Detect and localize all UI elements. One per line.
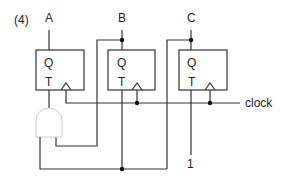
- t-label-c: T: [188, 75, 196, 89]
- output-label-a: A: [45, 11, 53, 25]
- output-label-b: B: [118, 11, 126, 25]
- junction-b: [120, 38, 124, 42]
- wire-and-input-c: [40, 137, 167, 169]
- junction-t-b: [120, 167, 124, 171]
- junction-clock-b: [135, 101, 139, 105]
- clock-label: clock: [245, 96, 273, 110]
- q-label-c: Q: [187, 56, 196, 70]
- junction-clock-c: [208, 101, 212, 105]
- problem-label: (4): [14, 13, 29, 27]
- and-gate: [36, 108, 62, 137]
- flip-flop-a: Q T: [36, 50, 84, 90]
- flip-flop-b: Q T: [108, 50, 155, 90]
- circuit-diagram: (4) A B C clock 1 Q T Q T: [0, 0, 282, 179]
- t-label-b: T: [118, 75, 126, 89]
- flip-flop-c: Q T: [179, 50, 227, 90]
- t-label-a: T: [45, 75, 53, 89]
- constant-one-label: 1: [187, 157, 194, 171]
- junction-c: [189, 38, 193, 42]
- output-label-c: C: [187, 11, 196, 25]
- wire-clock: [66, 90, 240, 103]
- q-label-a: Q: [44, 56, 53, 70]
- q-label-b: Q: [117, 56, 126, 70]
